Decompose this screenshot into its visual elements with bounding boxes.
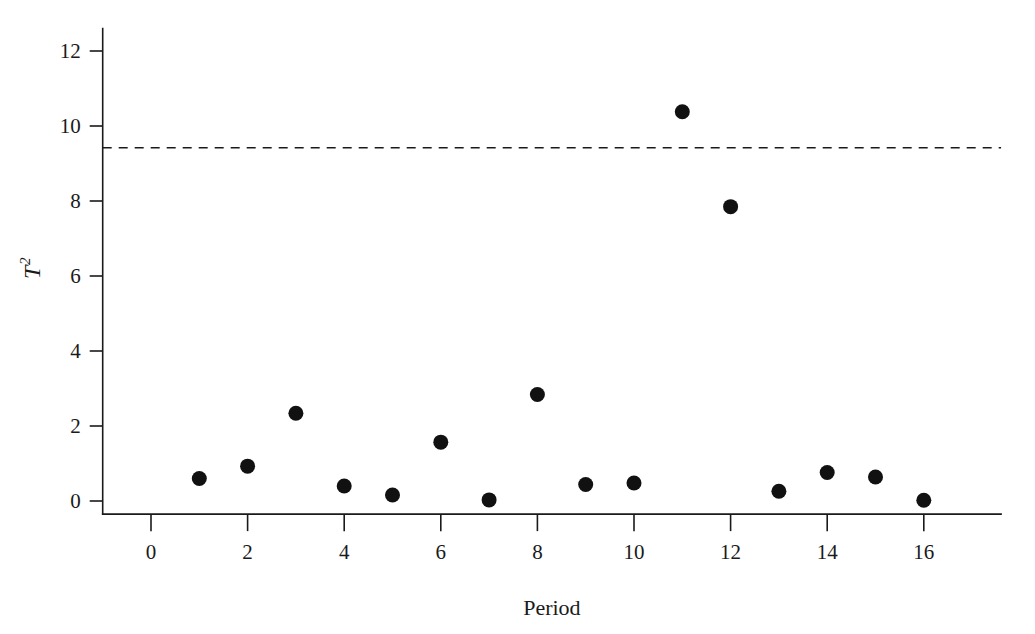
x-tick-label: 8 (532, 540, 543, 564)
data-point (530, 387, 545, 402)
axes (103, 29, 1001, 515)
y-axis-title-base: T (19, 264, 45, 279)
y-tick-label: 6 (70, 264, 81, 288)
x-tick-0: 0 (146, 514, 157, 564)
x-tick-label: 2 (242, 540, 253, 564)
data-point (385, 488, 400, 503)
x-tick-12: 12 (720, 514, 741, 564)
x-tick-16: 16 (913, 514, 934, 564)
y-tick-6: 6 (70, 264, 103, 288)
data-point (771, 484, 786, 499)
axis-titles: Period T 2 (17, 257, 581, 620)
y-tick-12: 12 (60, 39, 103, 63)
x-tick-label: 14 (817, 540, 839, 564)
data-point (337, 479, 352, 494)
x-tick-14: 14 (817, 514, 839, 564)
y-tick-label: 8 (70, 189, 81, 213)
y-tick-label: 0 (70, 489, 81, 513)
data-point (723, 199, 738, 214)
x-tick-10: 10 (624, 514, 645, 564)
data-points-group (192, 104, 932, 508)
data-point (433, 435, 448, 450)
y-tick-label: 4 (70, 339, 81, 363)
chart-figure: 024681012 0246810121416 Period T 2 (0, 0, 1035, 634)
x-tick-label: 4 (339, 540, 350, 564)
y-tick-10: 10 (60, 114, 103, 138)
data-point (627, 476, 642, 491)
x-axis-ticks: 0246810121416 (146, 514, 935, 564)
x-tick-label: 12 (720, 540, 741, 564)
data-point (820, 465, 835, 480)
data-point (192, 471, 207, 486)
x-tick-8: 8 (532, 514, 543, 564)
x-tick-2: 2 (242, 514, 253, 564)
scatter-plot-canvas: 024681012 0246810121416 Period T 2 (0, 0, 1035, 634)
y-axis-title: T 2 (17, 257, 45, 279)
data-point (675, 104, 690, 119)
y-axis-title-exponent: 2 (17, 257, 33, 265)
y-tick-label: 2 (70, 414, 81, 438)
y-tick-2: 2 (70, 414, 103, 438)
x-tick-4: 4 (339, 514, 350, 564)
data-point (482, 492, 497, 507)
y-axis-ticks: 024681012 (60, 39, 103, 513)
data-point (868, 470, 883, 485)
y-tick-0: 0 (70, 489, 103, 513)
data-point (288, 406, 303, 421)
data-point (240, 459, 255, 474)
data-point (916, 493, 931, 508)
y-tick-8: 8 (70, 189, 103, 213)
x-axis-title: Period (523, 595, 580, 620)
y-tick-label: 12 (60, 39, 81, 63)
x-tick-label: 10 (624, 540, 645, 564)
x-tick-label: 0 (146, 540, 157, 564)
y-tick-4: 4 (70, 339, 103, 363)
x-tick-label: 16 (913, 540, 934, 564)
data-point (578, 477, 593, 492)
x-tick-label: 6 (436, 540, 447, 564)
y-tick-label: 10 (60, 114, 81, 138)
x-tick-6: 6 (436, 514, 447, 564)
